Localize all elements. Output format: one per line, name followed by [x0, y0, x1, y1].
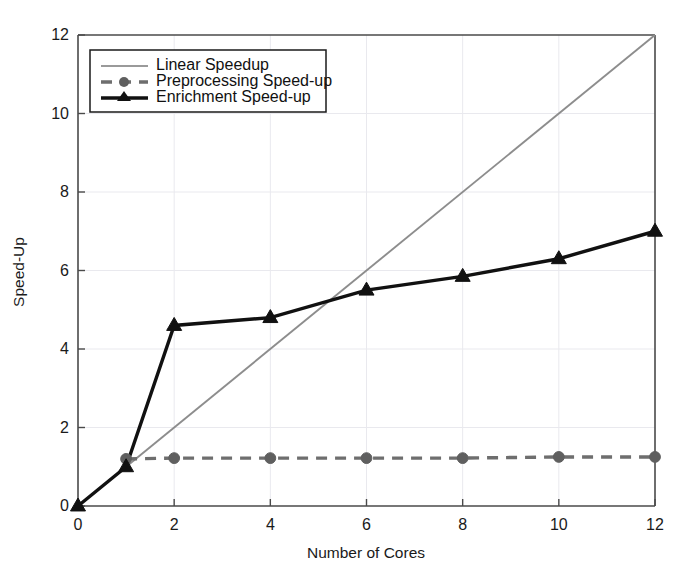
- y-tick-label: 10: [51, 105, 69, 122]
- x-axis-ticks: 024681012: [74, 499, 664, 533]
- y-tick-label: 2: [60, 419, 69, 436]
- legend-label-preprocessing-speed-up: Preprocessing Speed-up: [156, 72, 332, 89]
- data-point-marker: [553, 452, 564, 463]
- x-axis-title: Number of Cores: [307, 544, 425, 561]
- data-point-marker: [169, 453, 180, 464]
- y-tick-label: 0: [60, 497, 69, 514]
- series-line-preprocessing-speed-up: [126, 457, 655, 459]
- data-point-marker: [650, 452, 661, 463]
- y-axis-ticks: 024681012: [51, 26, 85, 514]
- y-tick-label: 4: [60, 340, 69, 357]
- data-point-marker: [265, 453, 276, 464]
- legend: Linear Speedup Preprocessing Speed-up En…: [90, 50, 332, 112]
- chart-figure: 024681012 024681012 Number of Cores Spee…: [0, 0, 693, 577]
- x-tick-label: 4: [266, 516, 275, 533]
- x-tick-label: 12: [646, 516, 664, 533]
- x-tick-label: 6: [362, 516, 371, 533]
- y-tick-label: 12: [51, 26, 69, 43]
- series-markers-preprocessing: [121, 452, 661, 465]
- legend-marker-circle-icon: [119, 77, 129, 87]
- x-tick-label: 0: [74, 516, 83, 533]
- legend-label-enrichment-speed-up: Enrichment Speed-up: [156, 88, 311, 105]
- data-point-marker: [648, 223, 663, 236]
- x-tick-label: 8: [458, 516, 467, 533]
- chart-svg: 024681012 024681012 Number of Cores Spee…: [0, 0, 693, 577]
- legend-label-linear-speedup: Linear Speedup: [156, 56, 269, 73]
- y-axis-title: Speed-Up: [10, 237, 27, 307]
- x-tick-label: 2: [170, 516, 179, 533]
- y-tick-label: 6: [60, 262, 69, 279]
- data-point-marker: [361, 453, 372, 464]
- data-point-marker: [457, 453, 468, 464]
- x-tick-label: 10: [550, 516, 568, 533]
- y-tick-label: 8: [60, 183, 69, 200]
